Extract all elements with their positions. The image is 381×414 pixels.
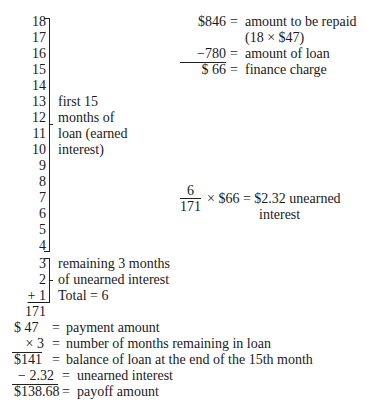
month-number: 9 — [22, 158, 46, 174]
bracket-earned — [44, 18, 50, 252]
bracket-unearned-midtick — [49, 280, 53, 281]
month-number: 5 — [22, 222, 46, 238]
fraction: 6 171 — [180, 183, 201, 214]
month-number: 10 — [22, 142, 46, 158]
month-number: 16 — [22, 46, 46, 62]
month-number: 4 — [22, 238, 46, 254]
month-number: 11 — [22, 126, 46, 142]
bracket-earned-midtick — [49, 124, 53, 125]
month-number: 13 — [22, 94, 46, 110]
month-number: 15 — [22, 62, 46, 78]
month-number: 2 — [22, 272, 46, 288]
month-number: + 1 — [16, 288, 46, 304]
month-number: 8 — [22, 174, 46, 190]
month-number: 12 — [22, 110, 46, 126]
month-number: 3 — [22, 256, 46, 272]
month-number: 17 — [22, 30, 46, 46]
month-number: 14 — [22, 78, 46, 94]
countdown-sum: 171 — [16, 304, 46, 320]
month-number: 6 — [22, 206, 46, 222]
month-number: 18 — [22, 14, 46, 30]
month-number: 7 — [22, 190, 46, 206]
